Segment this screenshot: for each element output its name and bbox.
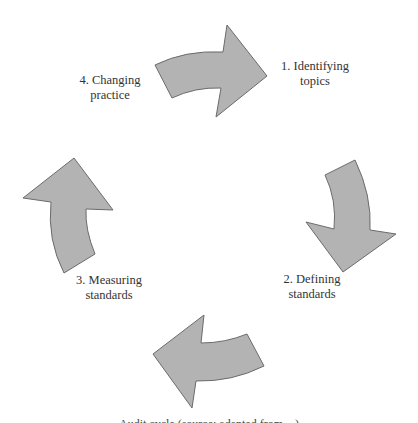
audit-cycle-diagram: 1. Identifying topics 2. Defining standa… (0, 0, 418, 423)
step-4-line2: practice (70, 88, 150, 103)
step-2-line1: 2. Defining (272, 272, 352, 287)
step-1-line1: 1. Identifying (270, 59, 360, 74)
arrow-top-right-icon (155, 25, 267, 117)
step-3-line1: 3. Measuring (64, 273, 154, 288)
step-2-line2: standards (272, 287, 352, 302)
step-2-label: 2. Defining standards (272, 272, 352, 302)
step-3-label: 3. Measuring standards (64, 273, 154, 303)
arrow-bottom-left-icon (153, 315, 264, 408)
figure-caption-cutoff: Audit cycle (source: adapted from ...) (0, 417, 418, 423)
step-4-line1: 4. Changing (70, 73, 150, 88)
step-1-line2: topics (270, 74, 360, 89)
arrow-left-up-icon (23, 158, 113, 273)
arrow-right-down-icon (306, 160, 396, 272)
step-3-line2: standards (64, 288, 154, 303)
step-4-label: 4. Changing practice (70, 73, 150, 103)
step-1-label: 1. Identifying topics (270, 59, 360, 89)
